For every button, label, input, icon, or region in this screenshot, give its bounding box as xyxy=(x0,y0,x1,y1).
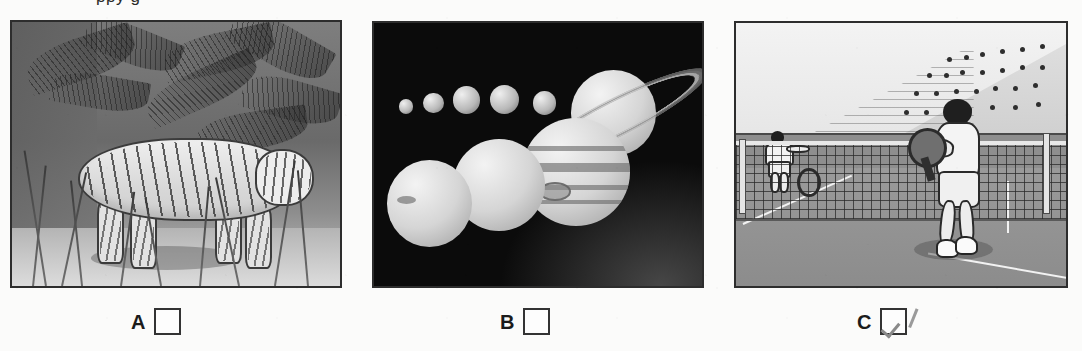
crowd-figure xyxy=(1020,65,1025,70)
tennis-net xyxy=(736,141,1066,221)
option-checkbox-a[interactable] xyxy=(154,308,181,335)
jungle-tiger-illustration xyxy=(12,22,340,286)
crowd-figure xyxy=(1000,68,1005,73)
option-a[interactable]: A xyxy=(10,20,342,350)
planet-neptune xyxy=(387,160,472,247)
crowd-figure xyxy=(964,55,969,60)
picture-frame-b xyxy=(372,21,704,288)
planet-mercury xyxy=(399,99,414,114)
near-player-shoe xyxy=(955,236,978,255)
planet-mars xyxy=(490,85,519,114)
planet-pluto xyxy=(533,91,556,114)
options-row: A xyxy=(0,0,1082,351)
planet-venus xyxy=(423,93,443,113)
crowd-figure xyxy=(1020,47,1025,52)
net-post xyxy=(1043,133,1050,214)
crowd-figure xyxy=(1040,44,1045,49)
crowd-figure xyxy=(954,89,959,94)
solar-system-planets-illustration xyxy=(374,23,702,286)
option-letter-a: A xyxy=(131,312,145,332)
option-b-caption[interactable]: B xyxy=(500,308,550,335)
option-c-caption[interactable]: C xyxy=(857,308,907,335)
option-letter-b: B xyxy=(500,312,514,332)
option-letter-c: C xyxy=(857,312,871,332)
option-b[interactable]: B xyxy=(372,21,704,351)
picture-frame-c xyxy=(734,21,1068,288)
option-checkbox-b[interactable] xyxy=(523,308,550,335)
planet-earth xyxy=(453,86,481,114)
option-a-caption[interactable]: A xyxy=(131,308,181,335)
crowd-figure xyxy=(1013,105,1018,110)
tennis-match-illustration xyxy=(736,23,1066,286)
crowd-figure xyxy=(944,73,949,78)
picture-frame-a xyxy=(10,20,342,288)
tiger-head xyxy=(255,149,315,206)
crowd-figure xyxy=(974,89,979,94)
crowd-figure xyxy=(1040,65,1045,70)
neptune-dark-spot xyxy=(397,196,416,204)
cropped-heading-text: ppy g xyxy=(96,0,141,7)
net-post xyxy=(739,139,746,215)
cropped-heading-row: ppy g xyxy=(0,0,1082,9)
option-checkbox-c[interactable] xyxy=(880,308,907,335)
option-c[interactable]: C xyxy=(734,21,1068,351)
